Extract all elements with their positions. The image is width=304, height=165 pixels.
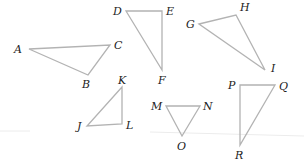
triangle-outline <box>166 106 200 136</box>
triangle-outline <box>29 45 110 75</box>
vertex-label-g: G <box>186 18 195 31</box>
triangle-outline <box>240 85 275 145</box>
triangle-mno: MNO <box>150 100 213 153</box>
vertex-label-o: O <box>177 140 186 153</box>
vertex-label-j: J <box>75 120 82 133</box>
vertex-label-m: M <box>150 100 163 113</box>
triangles-diagram: ACBDEFGHIKJLMNOPQR <box>0 0 304 165</box>
vertex-label-p: P <box>227 79 236 92</box>
vertex-label-e: E <box>165 5 174 18</box>
faint-line <box>150 132 304 136</box>
triangle-abc: ACB <box>13 39 123 91</box>
triangle-pqr: PQR <box>227 79 288 162</box>
vertex-label-r: R <box>234 149 243 162</box>
vertex-label-d: D <box>112 5 122 18</box>
vertex-label-k: K <box>117 74 127 87</box>
vertex-label-c: C <box>114 39 123 52</box>
triangle-outline <box>126 11 162 70</box>
triangle-outline <box>87 87 122 126</box>
vertex-label-q: Q <box>279 80 288 93</box>
vertex-label-n: N <box>202 100 213 113</box>
vertex-label-b: B <box>81 78 90 91</box>
triangle-ghi: GHI <box>186 1 276 75</box>
vertex-label-i: I <box>270 62 276 75</box>
triangle-outline <box>199 15 265 70</box>
vertex-label-f: F <box>157 74 166 87</box>
vertex-label-h: H <box>239 1 250 14</box>
vertex-label-a: A <box>13 43 22 56</box>
vertex-label-l: L <box>125 119 133 132</box>
